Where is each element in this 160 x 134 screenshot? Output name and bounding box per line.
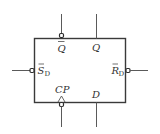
s-d-bar-subscript: D — [45, 70, 51, 78]
pin-cp: CP — [55, 84, 70, 127]
r-d-bar-inversion-bubble — [126, 69, 130, 73]
cp-inversion-bubble — [60, 103, 64, 107]
s-d-bar-inversion-bubble — [30, 69, 34, 73]
d-flip-flop-diagram: Q Q S D R D CP D — [0, 0, 160, 134]
q-bar-label: Q — [58, 43, 66, 54]
pin-q-bar: Q — [58, 14, 66, 54]
pin-q: Q — [92, 14, 100, 53]
q-bar-inversion-bubble — [60, 34, 64, 38]
cp-label: CP — [55, 84, 70, 95]
pin-r-d-bar: R D — [111, 64, 149, 78]
pin-d: D — [91, 89, 100, 127]
r-d-bar-subscript: D — [119, 70, 125, 78]
d-label: D — [91, 89, 100, 100]
q-label: Q — [92, 42, 100, 53]
s-d-bar-label: S — [38, 65, 45, 76]
s-d-bar-letter: S — [38, 65, 45, 76]
